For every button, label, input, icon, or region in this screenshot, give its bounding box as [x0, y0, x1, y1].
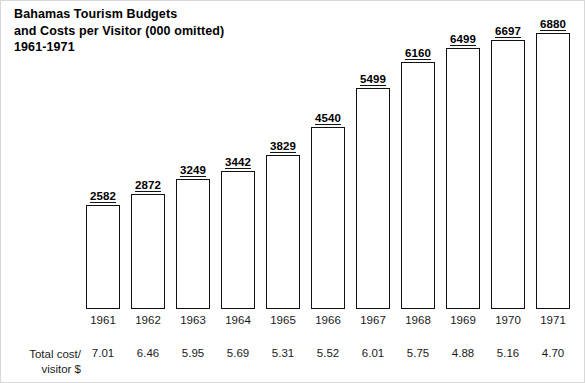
x-axis-label-1970: 1970	[483, 314, 533, 327]
cost-row-label: Total cost/ visitor $	[9, 347, 81, 376]
bar-1962[interactable]	[131, 194, 165, 309]
cost-per-visitor-1964: 5.69	[213, 347, 263, 360]
bar-chart-plot-area: 258219617.01287219626.46324919635.953442…	[1, 1, 585, 383]
x-axis-label-1965: 1965	[258, 314, 308, 327]
bar-value-label-1970: 6697	[483, 25, 533, 37]
bar-1969[interactable]	[446, 48, 480, 309]
x-axis-label-1961: 1961	[78, 314, 128, 327]
x-axis-label-1964: 1964	[213, 314, 263, 327]
cost-per-visitor-1961: 7.01	[78, 347, 128, 360]
bar-value-label-1965: 3829	[258, 140, 308, 152]
x-axis-label-1968: 1968	[393, 314, 443, 327]
x-axis-label-1969: 1969	[438, 314, 488, 327]
cost-per-visitor-1968: 5.75	[393, 347, 443, 360]
bar-value-label-1968: 6160	[393, 47, 443, 59]
bar-value-label-1967: 5499	[348, 73, 398, 85]
bar-value-label-1964: 3442	[213, 156, 263, 168]
cost-row-label-line-2: visitor $	[9, 362, 81, 377]
cost-per-visitor-1962: 6.46	[123, 347, 173, 360]
x-axis-label-1971: 1971	[528, 314, 578, 327]
cost-row-label-line-1: Total cost/	[9, 347, 81, 362]
bar-1965[interactable]	[266, 155, 300, 309]
cost-per-visitor-1966: 5.52	[303, 347, 353, 360]
bar-1971[interactable]	[536, 33, 570, 309]
chart-page: Bahamas Tourism Budgets and Costs per Vi…	[0, 0, 585, 383]
x-axis-label-1966: 1966	[303, 314, 353, 327]
bar-value-label-1971: 6880	[528, 18, 578, 30]
cost-per-visitor-1971: 4.70	[528, 347, 578, 360]
bar-1970[interactable]	[491, 40, 525, 309]
bar-value-label-1966: 4540	[303, 112, 353, 124]
x-axis-label-1963: 1963	[168, 314, 218, 327]
bar-value-label-1961: 2582	[78, 190, 128, 202]
cost-per-visitor-1963: 5.95	[168, 347, 218, 360]
x-axis-label-1962: 1962	[123, 314, 173, 327]
cost-per-visitor-1967: 6.01	[348, 347, 398, 360]
cost-per-visitor-1965: 5.31	[258, 347, 308, 360]
bar-1963[interactable]	[176, 179, 210, 309]
bar-1966[interactable]	[311, 127, 345, 309]
cost-per-visitor-1969: 4.88	[438, 347, 488, 360]
bar-1968[interactable]	[401, 62, 435, 309]
bar-value-label-1969: 6499	[438, 33, 488, 45]
bar-1967[interactable]	[356, 88, 390, 309]
bar-value-label-1963: 3249	[168, 164, 218, 176]
x-axis-label-1967: 1967	[348, 314, 398, 327]
bar-1961[interactable]	[86, 205, 120, 309]
bar-value-label-1962: 2872	[123, 179, 173, 191]
bar-1964[interactable]	[221, 171, 255, 309]
cost-per-visitor-1970: 5.16	[483, 347, 533, 360]
